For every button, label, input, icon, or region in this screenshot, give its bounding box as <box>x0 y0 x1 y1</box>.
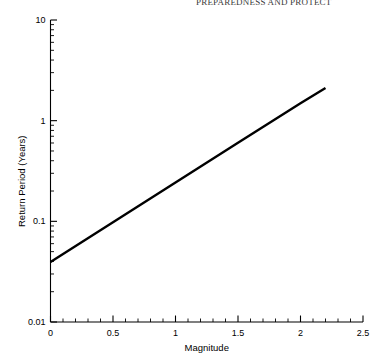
chart-plot-area: 1010.10.0100.511.522.5 <box>0 0 376 357</box>
chart-ticks <box>51 20 364 322</box>
x-tick-label: 2.5 <box>343 328 376 338</box>
chart-svg <box>0 0 376 357</box>
x-tick-label: 0 <box>31 328 71 338</box>
x-tick-label: 0.5 <box>93 328 133 338</box>
y-tick-label: 1 <box>6 116 46 126</box>
data-series-line <box>51 88 326 262</box>
chart-series-group <box>51 88 326 262</box>
figure-page: PREPAREDNESS AND PROTECT 1010.10.0100.51… <box>0 0 376 357</box>
x-tick-label: 1 <box>156 328 196 338</box>
chart-axes <box>51 20 364 322</box>
y-tick-label: 10 <box>6 15 46 25</box>
x-tick-label: 1.5 <box>218 328 258 338</box>
y-tick-label: 0.01 <box>6 317 46 327</box>
y-axis-title: Return Period (Years) <box>16 135 27 227</box>
bottom-caption-text <box>186 352 376 357</box>
x-tick-label: 2 <box>281 328 321 338</box>
